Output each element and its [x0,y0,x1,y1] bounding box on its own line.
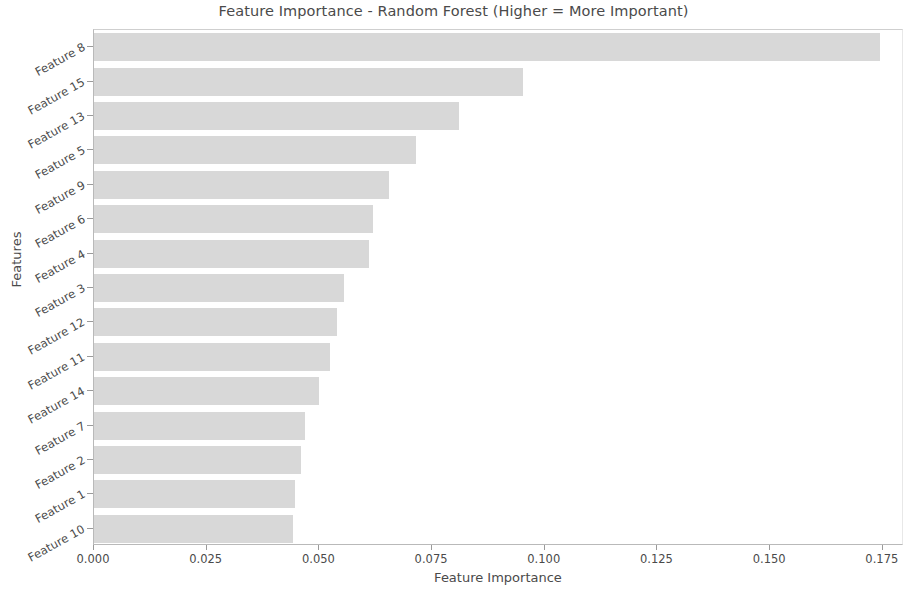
y-tick-label: Feature 2 [32,453,87,492]
y-tick-label: Feature 1 [32,487,87,526]
x-tick-mark [769,545,770,550]
y-tick-mark [87,81,93,82]
y-tick-label: Feature 4 [32,246,87,285]
y-tick-mark [87,425,93,426]
x-axis-title: Feature Importance [93,570,903,585]
bar [94,240,369,268]
x-tick-mark [93,545,94,550]
bar [94,446,301,474]
y-tick-mark [87,115,93,116]
x-tick-label: 0.000 [77,552,110,566]
y-tick-mark [87,321,93,322]
bar [94,102,459,130]
bar [94,171,389,199]
y-tick-mark [87,287,93,288]
y-tick-label: Feature 5 [32,143,87,182]
bar [94,412,305,440]
y-tick-mark [87,46,93,47]
bar [94,480,295,508]
x-tick-label: 0.100 [527,552,560,566]
bar [94,377,319,405]
y-tick-mark [87,493,93,494]
x-tick-label: 0.075 [415,552,448,566]
y-tick-label: Feature 8 [32,40,87,79]
y-axis-title: Features [9,210,24,310]
bar [94,515,293,543]
bar [94,274,344,302]
x-tick-mark [656,545,657,550]
bar [94,136,416,164]
x-tick-mark [882,545,883,550]
plot-area [93,29,903,545]
y-tick-mark [87,218,93,219]
x-tick-mark [206,545,207,550]
x-tick-mark [544,545,545,550]
y-tick-mark [87,149,93,150]
x-tick-label: 0.050 [302,552,335,566]
bar [94,33,880,61]
x-tick-mark [431,545,432,550]
y-tick-label: Feature 9 [32,178,87,217]
y-tick-mark [87,528,93,529]
y-tick-mark [87,390,93,391]
y-tick-label: Feature 6 [32,212,87,251]
x-tick-mark [318,545,319,550]
y-tick-mark [87,459,93,460]
figure-canvas: Feature Importance - Random Forest (High… [0,0,907,591]
y-tick-mark [87,184,93,185]
x-tick-label: 0.125 [640,552,673,566]
bar [94,205,373,233]
x-tick-label: 0.175 [865,552,898,566]
bar [94,343,330,371]
bar [94,68,523,96]
y-tick-label: Feature 7 [32,418,87,457]
x-tick-label: 0.025 [189,552,222,566]
x-tick-label: 0.150 [753,552,786,566]
chart-title: Feature Importance - Random Forest (High… [0,3,907,19]
y-tick-mark [87,356,93,357]
y-tick-mark [87,253,93,254]
bar [94,308,337,336]
